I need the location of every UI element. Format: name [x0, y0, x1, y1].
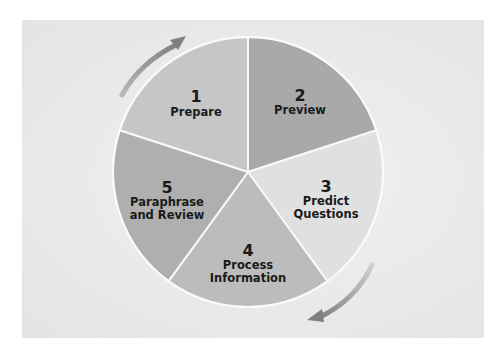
svg-text:Preview: Preview — [274, 103, 326, 117]
svg-text:Process: Process — [223, 258, 273, 272]
svg-text:Predict: Predict — [303, 194, 350, 208]
svg-text:1: 1 — [190, 87, 201, 106]
cycle-diagram: 1 Prepare 2 Preview 3 Predict Questions … — [0, 0, 501, 352]
svg-text:Paraphrase: Paraphrase — [130, 195, 204, 209]
svg-text:Questions: Questions — [294, 207, 359, 221]
svg-text:Information: Information — [210, 271, 286, 285]
svg-text:Prepare: Prepare — [170, 105, 222, 119]
svg-text:and Review: and Review — [130, 208, 205, 222]
